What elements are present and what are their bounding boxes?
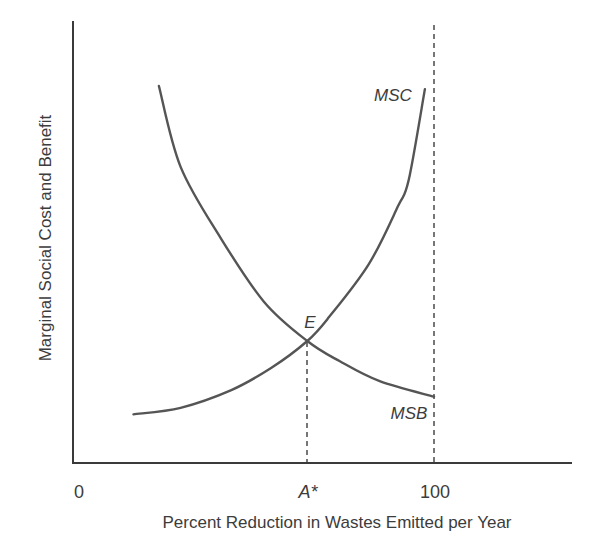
x-tick-0: 0 <box>74 483 84 501</box>
msc-label: MSC <box>374 87 412 104</box>
y-axis-title: Marginal Social Cost and Benefit <box>37 115 54 362</box>
msb-label: MSB <box>391 405 428 422</box>
msc-curve <box>134 89 425 414</box>
x-axis-title: Percent Reduction in Wastes Emitted per … <box>163 514 512 531</box>
x-tick-astar: A* <box>298 483 317 501</box>
chart-canvas <box>0 0 600 541</box>
equilibrium-label: E <box>304 314 315 331</box>
x-tick-100: 100 <box>420 483 450 501</box>
